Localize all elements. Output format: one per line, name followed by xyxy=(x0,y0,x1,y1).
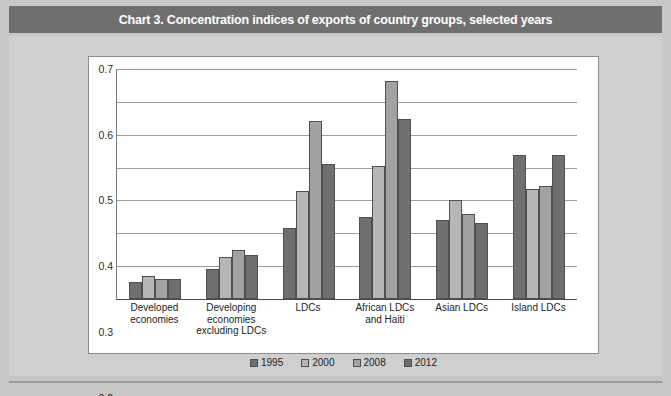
legend-label: 2012 xyxy=(415,357,437,368)
bar-1995[interactable] xyxy=(283,228,296,299)
legend-label: 2000 xyxy=(312,357,334,368)
chart-plot-panel: 00.10.20.30.40.50.60.7 Developed economi… xyxy=(88,56,599,354)
bar-group xyxy=(500,69,577,299)
bar-group xyxy=(347,69,424,299)
x-axis-category-label: Island LDCs xyxy=(500,302,577,337)
bar-2000[interactable] xyxy=(526,189,539,299)
bottom-divider xyxy=(9,381,662,383)
bar-2012[interactable] xyxy=(475,223,488,299)
chart-category-labels: Developed economiesDeveloping economies … xyxy=(116,302,577,337)
bar-2012[interactable] xyxy=(322,164,335,299)
page-title: Chart 3. Concentration indices of export… xyxy=(119,13,553,27)
y-axis-tick-label: 0.3 xyxy=(98,326,113,338)
bar-group xyxy=(117,69,194,299)
bar-2008[interactable] xyxy=(385,81,398,300)
bar-2000[interactable] xyxy=(296,191,309,299)
y-axis-tick-label: 0.4 xyxy=(98,260,113,272)
y-axis-tick-label: 0.7 xyxy=(98,63,113,75)
bar-group xyxy=(194,69,271,299)
bar-2012[interactable] xyxy=(245,255,258,299)
chart-title-bar: Chart 3. Concentration indices of export… xyxy=(9,6,662,33)
legend-item-2008[interactable]: 2008 xyxy=(353,357,386,368)
bar-2000[interactable] xyxy=(219,257,232,299)
y-axis-tick-label: 0.5 xyxy=(98,194,113,206)
x-axis-category-label: Asian LDCs xyxy=(423,302,500,337)
legend-swatch-icon xyxy=(301,359,309,367)
bar-2012[interactable] xyxy=(398,119,411,299)
bar-2008[interactable] xyxy=(462,214,475,299)
legend-label: 1995 xyxy=(261,357,283,368)
bar-1995[interactable] xyxy=(206,269,219,299)
chart-plot-area: 00.10.20.30.40.50.60.7 xyxy=(116,69,577,300)
y-axis-tick-label: 0.2 xyxy=(98,392,113,396)
legend-swatch-icon xyxy=(250,359,258,367)
bar-2012[interactable] xyxy=(552,155,565,299)
bar-2000[interactable] xyxy=(142,276,155,299)
bar-2008[interactable] xyxy=(232,250,245,299)
legend-item-2000[interactable]: 2000 xyxy=(301,357,334,368)
bar-2008[interactable] xyxy=(539,186,552,299)
legend-item-1995[interactable]: 1995 xyxy=(250,357,283,368)
chart-legend: 1995200020082012 xyxy=(89,357,598,368)
chart-page: Chart 3. Concentration indices of export… xyxy=(0,0,671,396)
bar-2000[interactable] xyxy=(449,200,462,299)
x-axis-category-label: LDCs xyxy=(270,302,347,337)
x-axis-category-label: Developed economies xyxy=(116,302,193,337)
gridline: 0 xyxy=(117,299,577,300)
x-axis-category-label: Developing economies excluding LDCs xyxy=(193,302,270,337)
bar-2000[interactable] xyxy=(372,166,385,299)
bar-2012[interactable] xyxy=(168,279,181,299)
y-axis-tick-label: 0.6 xyxy=(98,129,113,141)
bar-1995[interactable] xyxy=(129,282,142,299)
bar-1995[interactable] xyxy=(436,220,449,300)
bar-group xyxy=(270,69,347,299)
chart-bars xyxy=(117,69,577,299)
bar-group xyxy=(424,69,501,299)
bar-2008[interactable] xyxy=(309,121,322,299)
x-axis-category-label: African LDCs and Haiti xyxy=(346,302,423,337)
legend-swatch-icon xyxy=(404,359,412,367)
legend-label: 2008 xyxy=(364,357,386,368)
bar-1995[interactable] xyxy=(513,155,526,299)
legend-item-2012[interactable]: 2012 xyxy=(404,357,437,368)
legend-swatch-icon xyxy=(353,359,361,367)
bar-1995[interactable] xyxy=(359,217,372,299)
bar-2008[interactable] xyxy=(155,279,168,299)
chart-figure: 00.10.20.30.40.50.60.7 Developed economi… xyxy=(9,36,662,376)
